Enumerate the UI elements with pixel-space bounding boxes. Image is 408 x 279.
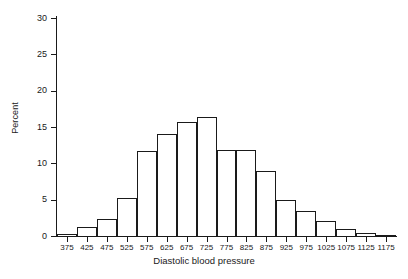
y-axis-tick [51, 127, 57, 128]
x-axis-tick [306, 237, 307, 242]
x-axis-tick [207, 237, 208, 242]
histogram-bar [117, 198, 137, 236]
x-axis-tick [246, 237, 247, 242]
x-axis-tick [227, 237, 228, 242]
y-axis-tick-label: 30 [7, 14, 47, 23]
x-axis-tick [366, 237, 367, 242]
histogram-bar [97, 219, 117, 236]
histogram-figure: Percent 051015202530 3754254755255756256… [0, 0, 408, 279]
x-axis-tick [346, 237, 347, 242]
histogram-bar [77, 227, 97, 236]
y-axis-tick [51, 236, 57, 237]
histogram-bar [177, 122, 197, 236]
y-axis-tick [51, 200, 57, 201]
histogram-bar [157, 134, 177, 236]
histogram-bar [276, 200, 296, 236]
y-axis-tick-label: 25 [7, 50, 47, 59]
x-axis-tick [286, 237, 287, 242]
histogram-bar [336, 229, 356, 236]
histogram-bar [296, 211, 316, 236]
histogram-bar [256, 171, 276, 236]
y-axis-tick [51, 18, 57, 19]
y-axis-tick [51, 163, 57, 164]
x-axis-tick-label: 1175 [369, 243, 403, 252]
y-axis-tick [51, 91, 57, 92]
histogram-bar [217, 150, 237, 236]
x-axis-tick [127, 237, 128, 242]
histogram-bar [236, 150, 256, 236]
y-axis-tick-label: 20 [7, 86, 47, 95]
histogram-bar [137, 151, 157, 236]
x-axis-tick [147, 237, 148, 242]
y-axis-tick [51, 54, 57, 55]
y-axis-tick-label: 15 [7, 123, 47, 132]
x-axis-tick [386, 237, 387, 242]
x-axis-tick [326, 237, 327, 242]
histogram-bar [57, 234, 77, 236]
y-axis-tick-label: 10 [7, 159, 47, 168]
x-axis-tick [167, 237, 168, 242]
histogram-bar [197, 117, 217, 236]
x-axis-tick [107, 237, 108, 242]
x-axis-title: Diastolic blood pressure [0, 255, 408, 266]
histogram-bar [316, 221, 336, 236]
x-axis-tick [67, 237, 68, 242]
y-axis-tick-label: 0 [7, 232, 47, 241]
y-axis-tick-label: 5 [7, 195, 47, 204]
histogram-bar [356, 233, 376, 236]
x-axis-tick [266, 237, 267, 242]
histogram-bar [376, 235, 396, 237]
x-axis-tick [187, 237, 188, 242]
x-axis-tick [87, 237, 88, 242]
